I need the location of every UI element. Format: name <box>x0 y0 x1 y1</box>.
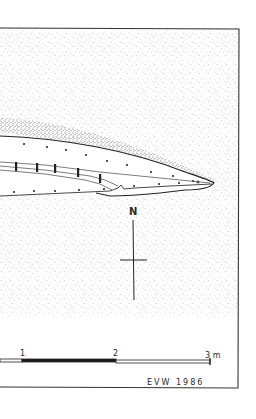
scale-bar <box>0 358 210 365</box>
scale-tick-1: 1 <box>20 350 25 358</box>
scale-tick-2: 2 <box>113 350 118 358</box>
signature: EVW 1986 <box>147 379 204 387</box>
scale-tick-3: 3 m <box>205 352 220 360</box>
north-label: N <box>129 207 137 217</box>
